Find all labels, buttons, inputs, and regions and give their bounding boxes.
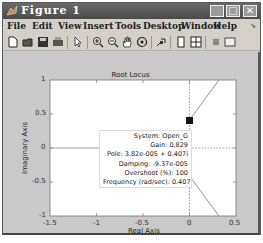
xtick-label: 0.5 (229, 219, 240, 227)
menu-insert[interactable]: Insert (83, 21, 113, 31)
matlab-logo-icon (6, 5, 18, 17)
datatip-damping: Damping: -9.37e-005 (103, 160, 188, 169)
pointer-icon[interactable] (72, 36, 84, 48)
colorbar-icon[interactable] (175, 36, 187, 48)
toolbar-separator (205, 36, 206, 49)
toolbar-separator (87, 36, 88, 49)
show-plot-tools-icon[interactable] (224, 36, 236, 48)
datatip-box[interactable]: System: Open_G Gain: 0.829 Pole: 3.82e-0… (99, 130, 192, 188)
save-icon[interactable] (37, 36, 49, 48)
menu-dock-arrow-icon[interactable]: ➘ (250, 22, 256, 30)
maximize-button[interactable]: □ (226, 5, 240, 17)
data-cursor-icon[interactable] (155, 36, 167, 48)
figure-toolbar (3, 34, 260, 51)
pan-hand-icon[interactable] (121, 36, 133, 48)
x-axis-label: Real Axis (128, 227, 160, 235)
toolbar-separator (151, 36, 152, 49)
ytick-label: 0 (41, 143, 45, 151)
maximize-icon: □ (228, 5, 237, 16)
menu-tools[interactable]: Tools (115, 21, 141, 31)
minimize-icon: _ (215, 5, 220, 16)
minimize-button[interactable]: _ (210, 5, 224, 17)
window-title: Figure 1 (21, 4, 81, 17)
title-bar[interactable]: Figure 1 _ □ ✕ (3, 3, 260, 19)
print-icon[interactable] (52, 36, 64, 48)
ytick-label: 0.5 (35, 109, 46, 117)
figure-canvas: Root Locus 1 (3, 52, 260, 235)
menu-edit[interactable]: Edit (32, 21, 53, 31)
y-axis-label: Imaginary Axis (21, 118, 29, 178)
legend-icon[interactable] (190, 36, 202, 48)
ytick-label: 1 (41, 75, 45, 83)
datatip-gain: Gain: 0.829 (103, 141, 188, 150)
datatip-frequency: Frequency (rad/sec): 0.407 (103, 178, 188, 187)
toolbar-separator (67, 36, 68, 49)
hide-plot-tools-icon[interactable] (210, 36, 222, 48)
menu-view[interactable]: View (58, 21, 82, 31)
menu-bar: File Edit View Insert Tools Desktop Wind… (3, 20, 260, 34)
close-button[interactable]: ✕ (243, 5, 257, 17)
ytick-label: -1 (39, 211, 46, 219)
menu-help[interactable]: Help (213, 21, 237, 31)
datatip-marker[interactable] (186, 117, 193, 124)
zoom-out-icon[interactable] (107, 36, 119, 48)
toolbar-separator (170, 36, 171, 49)
new-figure-icon[interactable] (7, 36, 19, 48)
datatip-overshoot: Overshoot (%): 100 (103, 169, 188, 178)
datatip-pole: Pole: 3.82e-005 + 0.407i (103, 150, 188, 159)
xtick-label: -1.5 (43, 219, 57, 227)
xtick-label: -0.5 (135, 219, 149, 227)
menu-desktop[interactable]: Desktop (143, 21, 184, 31)
xtick-label: 0 (187, 219, 191, 227)
rotate-3d-icon[interactable] (136, 36, 148, 48)
ytick-label: -0.5 (32, 177, 46, 185)
close-icon: ✕ (246, 5, 254, 16)
figure-window: Figure 1 _ □ ✕ File Edit View Insert Too… (2, 2, 261, 235)
xtick-label: -1 (93, 219, 100, 227)
open-file-icon[interactable] (22, 36, 34, 48)
menu-file[interactable]: File (7, 21, 26, 31)
datatip-system: System: Open_G (103, 132, 188, 141)
zoom-in-icon[interactable] (92, 36, 104, 48)
